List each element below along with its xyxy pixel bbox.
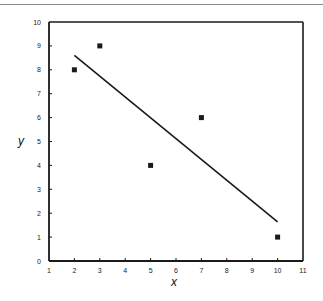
y-tick-label: 4 xyxy=(37,162,41,169)
x-tick-label: 6 xyxy=(174,267,178,274)
x-tick-label: 4 xyxy=(123,267,127,274)
data-point xyxy=(97,43,102,48)
regression-line xyxy=(74,55,277,221)
plot-frame xyxy=(49,22,303,261)
y-tick-label: 10 xyxy=(33,19,41,26)
y-tick-label: 3 xyxy=(37,186,41,193)
x-tick-label: 7 xyxy=(199,267,203,274)
y-tick-label: 0 xyxy=(37,258,41,265)
x-tick-label: 5 xyxy=(149,267,153,274)
x-tick-label: 10 xyxy=(274,267,282,274)
data-point xyxy=(199,115,204,120)
x-axis-title: x xyxy=(170,275,178,289)
y-tick-label: 6 xyxy=(37,114,41,121)
scatter-chart: 1234567891011 012345678910 x y xyxy=(0,0,323,301)
y-axis-title: y xyxy=(17,134,25,148)
y-tick-label: 7 xyxy=(37,90,41,97)
x-tick-label: 11 xyxy=(299,267,306,274)
y-tick-label: 1 xyxy=(37,234,41,241)
data-marks xyxy=(72,43,280,239)
data-point xyxy=(72,67,77,72)
y-tick-label: 2 xyxy=(37,210,41,217)
data-point xyxy=(148,163,153,168)
x-tick-label: 9 xyxy=(250,267,254,274)
y-tick-label: 5 xyxy=(37,138,41,145)
data-point xyxy=(275,235,280,240)
x-tick-label: 1 xyxy=(47,267,51,274)
y-tick-label: 8 xyxy=(37,66,41,73)
x-tick-label: 8 xyxy=(225,267,229,274)
x-tick-label: 3 xyxy=(98,267,102,274)
y-tick-label: 9 xyxy=(37,42,41,49)
x-tick-label: 2 xyxy=(72,267,76,274)
